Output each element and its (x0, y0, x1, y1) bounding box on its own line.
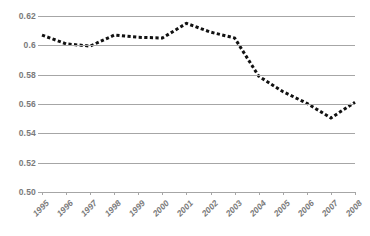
x-tick-label: 1996 (47, 198, 75, 226)
y-tick-label: 0.58 (19, 70, 36, 80)
x-tick-label: 1995 (23, 198, 51, 226)
x-tick-label: 2007 (312, 198, 340, 226)
x-tick-mark (307, 192, 308, 195)
gridline (42, 45, 355, 46)
x-tick-label: 2004 (239, 198, 267, 226)
x-axis: 1995199619971998199920002001200220032004… (0, 192, 370, 236)
gridline (42, 104, 355, 105)
x-tick-mark (162, 192, 163, 195)
x-tick-mark (259, 192, 260, 195)
x-tick-label: 1999 (119, 198, 147, 226)
x-tick-mark (331, 192, 332, 195)
x-tick-label: 2002 (191, 198, 219, 226)
x-tick-mark (283, 192, 284, 195)
x-tick-mark (186, 192, 187, 195)
line-chart: 0.620.60.580.560.540.520.50 199519961997… (0, 0, 370, 236)
x-tick-label: 2001 (167, 198, 195, 226)
gridline (42, 133, 355, 134)
x-tick-label: 2006 (288, 198, 316, 226)
gridline (42, 16, 355, 17)
gridline (42, 163, 355, 164)
y-tick-label: 0.54 (19, 128, 36, 138)
y-tick-label: 0.6 (24, 40, 36, 50)
x-tick-label: 2000 (143, 198, 171, 226)
y-tick-label: 0.62 (19, 11, 36, 21)
x-tick-label: 2005 (264, 198, 292, 226)
x-tick-mark (138, 192, 139, 195)
x-tick-label: 2003 (215, 198, 243, 226)
y-tick-label: 0.52 (19, 158, 36, 168)
y-tick-label: 0.56 (19, 99, 36, 109)
x-tick-mark (66, 192, 67, 195)
x-tick-label: 1998 (95, 198, 123, 226)
plot-area (42, 16, 355, 192)
x-tick-mark (90, 192, 91, 195)
x-tick-mark (114, 192, 115, 195)
gridline (42, 75, 355, 76)
x-tick-label: 2008 (336, 198, 364, 226)
x-tick-mark (235, 192, 236, 195)
x-tick-mark (355, 192, 356, 195)
x-tick-mark (211, 192, 212, 195)
x-tick-label: 1997 (71, 198, 99, 226)
x-tick-mark (42, 192, 43, 195)
